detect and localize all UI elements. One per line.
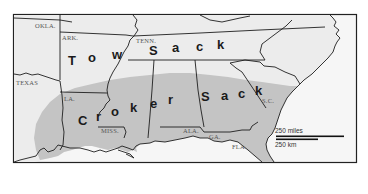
term-letter: e (150, 96, 157, 111)
scale-km-bar (276, 139, 318, 141)
term-letter: k (255, 83, 263, 98)
scale-miles-bar (276, 136, 344, 138)
state-label-okla: OKLA. (35, 22, 56, 29)
term-letter: r (96, 109, 101, 124)
term-letter: c (196, 39, 203, 54)
state-label-fla: FLA. (232, 143, 247, 150)
term-letter: c (238, 86, 245, 101)
term-letter: a (221, 88, 229, 103)
term-letter: w (111, 47, 123, 62)
term-letter: T (68, 53, 76, 68)
state-label-ga: GA. (209, 133, 221, 140)
dialect-map: 250 miles 250 km OKLA. ARK. TENN. TEXAS … (0, 0, 368, 194)
term-letter: k (130, 100, 138, 115)
term-letter: k (217, 37, 225, 52)
state-label-miss: MISS. (101, 127, 119, 134)
term-letter: a (172, 40, 180, 55)
term-letter: S (149, 43, 158, 58)
term-letter: S (201, 89, 210, 104)
state-label-ark: ARK. (62, 34, 78, 41)
state-label-sc: S.C. (262, 97, 274, 104)
scale-miles-label: 250 miles (275, 127, 304, 134)
state-label-texas: TEXAS (16, 79, 38, 86)
term-letter: r (168, 92, 173, 107)
state-label-la: LA. (64, 95, 75, 102)
term-letter: o (88, 50, 96, 65)
state-label-ala: ALA. (183, 127, 199, 134)
term-letter: o (111, 104, 119, 119)
scale-km-label: 250 km (275, 141, 296, 148)
term-letter: C (78, 113, 88, 128)
